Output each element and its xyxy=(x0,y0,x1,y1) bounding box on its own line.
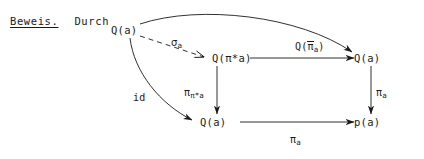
diagram-page: Beweis.Durch Q(a) Q(π*a) Q(a) Q(a) p(a) … xyxy=(0,0,424,159)
q-open-paren: Q( xyxy=(295,41,307,52)
edge-label-sigma-a: σa xyxy=(171,38,182,50)
proof-keyword: Beweis. xyxy=(10,15,58,27)
node-q-a-top: Q(a) xyxy=(111,25,138,36)
node-q-a-bottom-left: Q(a) xyxy=(200,117,227,128)
edge-label-pi-a-right: πa xyxy=(376,88,387,100)
proof-lead-text: Durch xyxy=(74,15,109,27)
proof-lead-line: Beweis.Durch xyxy=(10,16,109,27)
q-close-paren: ) xyxy=(318,41,324,52)
edge-label-pi-pistar-a: ππ*a xyxy=(184,88,204,100)
pi-pistar-subscript: π*a xyxy=(190,91,204,100)
edge-label-id: id xyxy=(133,93,145,103)
pi-bottom-subscript: a xyxy=(296,138,301,147)
node-p-a-bottom-right: p(a) xyxy=(354,117,381,128)
edge-label-q-pibar-a: Q(πa) xyxy=(295,41,324,54)
node-q-pistar-a: Q(π*a) xyxy=(212,53,252,64)
node-q-a-right: Q(a) xyxy=(354,53,381,64)
edge-label-pi-a-bottom: πa xyxy=(290,135,301,147)
sigma-subscript: a xyxy=(178,41,183,50)
pi-right-subscript: a xyxy=(382,91,387,100)
